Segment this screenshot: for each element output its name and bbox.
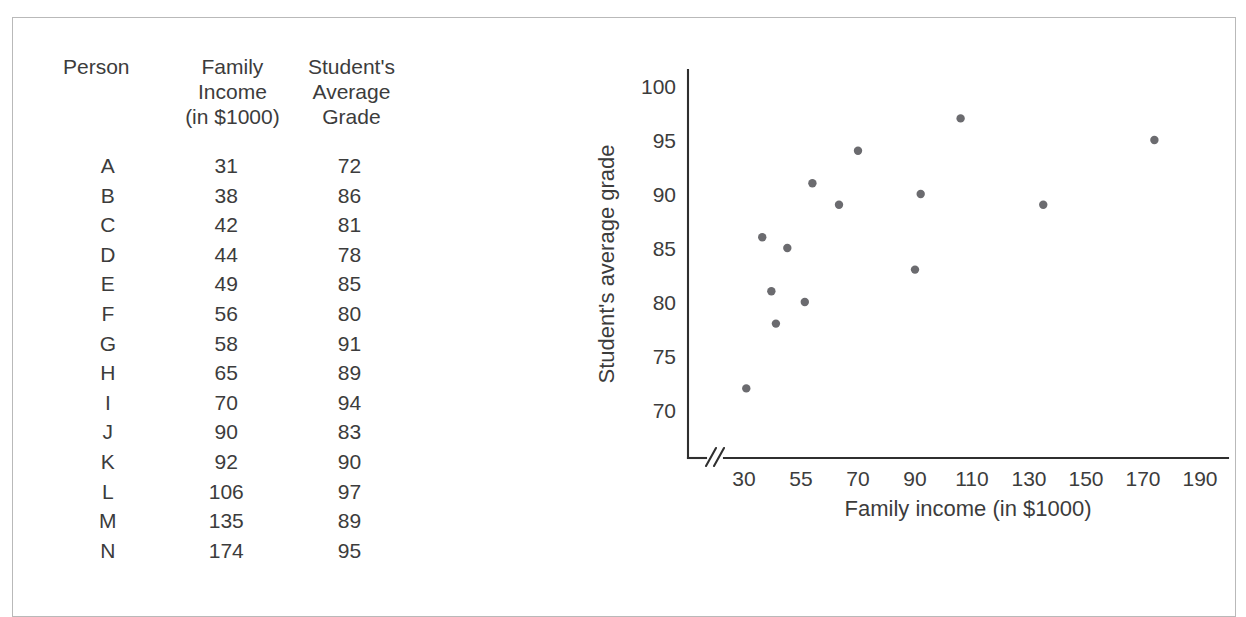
- table-row: N17495: [51, 536, 411, 566]
- cell-person: I: [51, 388, 165, 417]
- data-point: [772, 319, 780, 327]
- y-axis-title: Student's average grade: [594, 144, 619, 383]
- table-row: A3172: [51, 151, 411, 181]
- table-row: K9290: [51, 447, 411, 477]
- table-row: E4985: [51, 269, 411, 299]
- table-row: J9083: [51, 417, 411, 447]
- x-tick-label: 55: [789, 467, 812, 490]
- cell-average-grade: 83: [288, 417, 411, 446]
- cell-average-grade: 86: [288, 181, 411, 210]
- cell-family-income: 31: [165, 151, 288, 180]
- cell-average-grade: 91: [288, 329, 411, 358]
- cell-person: D: [51, 240, 165, 269]
- x-tick-labels: 30557090110130150170190: [732, 467, 1217, 490]
- cell-person: A: [51, 151, 165, 180]
- data-point: [835, 201, 843, 209]
- cell-family-income: 92: [165, 447, 288, 476]
- x-tick-label: 110: [955, 467, 988, 490]
- x-tick-label: 130: [1011, 467, 1046, 490]
- page-frame: Person Family Income (in $1000) Student'…: [12, 17, 1236, 617]
- data-point: [801, 298, 809, 306]
- table-row: F5680: [51, 299, 411, 329]
- table-row: G5891: [51, 329, 411, 359]
- cell-family-income: 58: [165, 329, 288, 358]
- data-point: [783, 244, 791, 252]
- column-header-student-average-grade: Student's Average Grade: [292, 54, 411, 129]
- cell-average-grade: 80: [288, 299, 411, 328]
- table-row: I7094: [51, 388, 411, 418]
- y-tick-label: 85: [653, 237, 676, 260]
- cell-average-grade: 72: [288, 151, 411, 180]
- cell-family-income: 56: [165, 299, 288, 328]
- cell-family-income: 65: [165, 358, 288, 387]
- table-row: H6589: [51, 358, 411, 388]
- table-header-row: Person Family Income (in $1000) Student'…: [51, 54, 411, 129]
- column-header-family-income: Family Income (in $1000): [173, 54, 292, 129]
- data-point: [742, 384, 750, 392]
- data-point: [854, 147, 862, 155]
- data-point: [758, 233, 766, 241]
- data-point: [1150, 136, 1158, 144]
- cell-average-grade: 95: [288, 536, 411, 565]
- axis-break-icon: [706, 448, 724, 466]
- cell-person: M: [51, 506, 165, 535]
- cell-average-grade: 85: [288, 269, 411, 298]
- cell-average-grade: 90: [288, 447, 411, 476]
- x-tick-label: 70: [846, 467, 869, 490]
- data-table: Person Family Income (in $1000) Student'…: [51, 54, 411, 565]
- chart-canvas: 707580859095100 30557090110130150170190 …: [588, 48, 1238, 548]
- cell-family-income: 90: [165, 417, 288, 446]
- table-body: A3172B3886C4281D4478E4985F5680G5891H6589…: [51, 151, 411, 565]
- cell-average-grade: 97: [288, 477, 411, 506]
- cell-person: B: [51, 181, 165, 210]
- y-tick-label: 90: [653, 183, 676, 206]
- cell-average-grade: 81: [288, 210, 411, 239]
- cell-person: C: [51, 210, 165, 239]
- x-tick-label: 170: [1125, 467, 1160, 490]
- cell-average-grade: 78: [288, 240, 411, 269]
- data-point: [808, 179, 816, 187]
- table-row: D4478: [51, 240, 411, 270]
- cell-family-income: 49: [165, 269, 288, 298]
- y-tick-label: 75: [653, 345, 676, 368]
- data-point: [1039, 201, 1047, 209]
- y-tick-labels: 707580859095100: [641, 75, 676, 422]
- table-row: M13589: [51, 506, 411, 536]
- cell-person: L: [51, 477, 165, 506]
- cell-family-income: 70: [165, 388, 288, 417]
- x-tick-label: 30: [732, 467, 755, 490]
- data-point: [956, 114, 964, 122]
- data-point: [911, 265, 919, 273]
- x-axis-title: Family income (in $1000): [845, 496, 1092, 521]
- table-row: B3886: [51, 181, 411, 211]
- cell-person: N: [51, 536, 165, 565]
- cell-person: H: [51, 358, 165, 387]
- cell-family-income: 38: [165, 181, 288, 210]
- cell-family-income: 135: [165, 506, 288, 535]
- cell-average-grade: 89: [288, 506, 411, 535]
- x-tick-label: 90: [903, 467, 926, 490]
- data-point: [917, 190, 925, 198]
- table-row: L10697: [51, 477, 411, 507]
- cell-average-grade: 94: [288, 388, 411, 417]
- cell-family-income: 44: [165, 240, 288, 269]
- y-tick-label: 80: [653, 291, 676, 314]
- column-header-person: Person: [51, 54, 173, 129]
- y-tick-label: 100: [641, 75, 676, 98]
- table-row: C4281: [51, 210, 411, 240]
- x-tick-label: 150: [1068, 467, 1103, 490]
- cell-person: F: [51, 299, 165, 328]
- data-points: [742, 114, 1159, 392]
- cell-family-income: 174: [165, 536, 288, 565]
- cell-person: G: [51, 329, 165, 358]
- cell-average-grade: 89: [288, 358, 411, 387]
- cell-person: J: [51, 417, 165, 446]
- data-point: [767, 287, 775, 295]
- x-tick-label: 190: [1182, 467, 1217, 490]
- y-tick-label: 95: [653, 129, 676, 152]
- cell-person: E: [51, 269, 165, 298]
- scatter-plot: 707580859095100 30557090110130150170190 …: [588, 48, 1238, 548]
- cell-family-income: 106: [165, 477, 288, 506]
- cell-person: K: [51, 447, 165, 476]
- y-tick-label: 70: [653, 399, 676, 422]
